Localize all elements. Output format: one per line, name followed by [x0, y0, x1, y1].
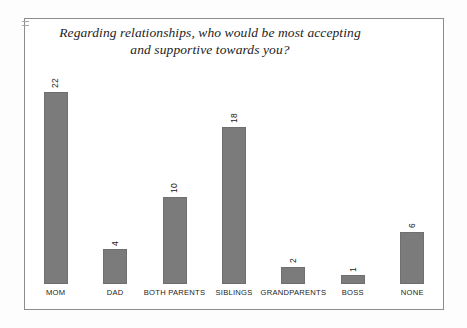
category-label: BOTH PARENTS — [144, 288, 206, 297]
bar-value-label: 18 — [230, 113, 239, 123]
category-label: MOM — [46, 288, 65, 297]
bar-rect[interactable] — [163, 197, 187, 285]
bar-value-label: 2 — [289, 258, 298, 263]
bar-value-label: 1 — [349, 267, 358, 272]
chart-title-line-1: Regarding relationships, who would be mo… — [30, 24, 390, 41]
category-axis-labels: MOMDADBOTH PARENTSSIBLINGSGRANDPARENTSBO… — [26, 288, 442, 302]
bar-rect[interactable] — [281, 267, 305, 285]
bar-column[interactable]: 22 — [44, 78, 68, 284]
chart-title: Regarding relationships, who would be mo… — [30, 24, 390, 58]
bar-value-label: 6 — [408, 223, 417, 228]
bar-value-label: 10 — [170, 183, 179, 193]
bar-rect[interactable] — [222, 127, 246, 285]
bar-column[interactable]: 6 — [400, 223, 424, 284]
bar-value-label: 4 — [111, 241, 120, 246]
chart-screenshot: Regarding relationships, who would be mo… — [0, 0, 467, 328]
bar-rect[interactable] — [341, 275, 365, 284]
frame-edge-artifact — [22, 21, 29, 26]
bar-column[interactable]: 18 — [222, 113, 246, 284]
bar-rect[interactable] — [103, 249, 127, 284]
bar-group: 2 — [264, 74, 323, 284]
bar-group: 1 — [323, 74, 382, 284]
category-label: GRANDPARENTS — [261, 288, 327, 297]
category-label: SIBLINGS — [215, 288, 252, 297]
bar-group: 18 — [204, 74, 263, 284]
bar-column[interactable]: 1 — [341, 267, 365, 284]
bar-rect[interactable] — [400, 232, 424, 285]
bar-rect[interactable] — [44, 92, 68, 285]
bar-column[interactable]: 4 — [103, 241, 127, 284]
category-label: BOSS — [342, 288, 364, 297]
bar-value-label: 22 — [51, 78, 60, 88]
category-label: NONE — [401, 288, 424, 297]
bar-group: 22 — [26, 74, 85, 284]
bar-group: 4 — [85, 74, 144, 284]
bar-column[interactable]: 2 — [281, 258, 305, 284]
plot-area: 2241018216 — [26, 74, 442, 284]
category-label: DAD — [107, 288, 124, 297]
bar-group: 6 — [383, 74, 442, 284]
chart-title-line-2: and supportive towards you? — [30, 41, 390, 58]
bar-group: 10 — [145, 74, 204, 284]
bar-column[interactable]: 10 — [163, 183, 187, 284]
